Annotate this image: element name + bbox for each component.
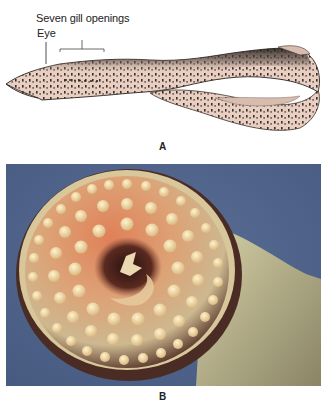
label-eye: Eye — [37, 27, 56, 39]
panel-label-a: A — [159, 141, 166, 152]
tail-loop — [150, 90, 319, 130]
gill-bracket — [60, 40, 104, 52]
figure-panel-a: Seven gill openings Eye A — [0, 0, 335, 158]
oral-disc-photo — [6, 164, 321, 386]
panel-label-b: B — [159, 391, 166, 402]
label-gill-openings: Seven gill openings — [36, 12, 130, 24]
figure-panel-b-photo — [6, 164, 321, 386]
